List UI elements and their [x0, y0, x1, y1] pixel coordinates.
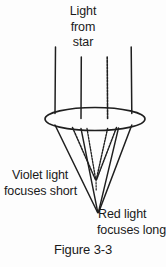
figure-caption: Figure 3-3	[0, 243, 166, 258]
label-red-focuses-long: Red light focuses long	[97, 207, 166, 238]
label-light-from-star: Light from star	[0, 4, 166, 51]
label-violet-focuses-short: Violet light focuses short	[4, 168, 77, 199]
label-light-from-star-line-2: from	[0, 20, 166, 36]
lens-ellipse-icon	[45, 108, 145, 131]
red-ray-inner-right-icon	[98, 128, 118, 213]
red-ray-right-icon	[99, 125, 132, 213]
incoming-ray-outer-left-icon	[55, 47, 56, 114]
lens-group	[45, 108, 145, 131]
figure-3-3-diagram: Light from star Violet light focuses sho…	[0, 0, 166, 267]
label-violet-line-1: Violet light	[4, 168, 77, 184]
label-light-from-star-line-3: star	[0, 35, 166, 51]
label-light-from-star-line-1: Light	[0, 4, 166, 20]
label-violet-line-2: focuses short	[4, 184, 77, 200]
label-red-line-2: focuses long	[97, 223, 166, 239]
label-red-line-1: Red light	[97, 207, 166, 223]
incoming-ray-outer-right-icon	[131, 47, 132, 114]
